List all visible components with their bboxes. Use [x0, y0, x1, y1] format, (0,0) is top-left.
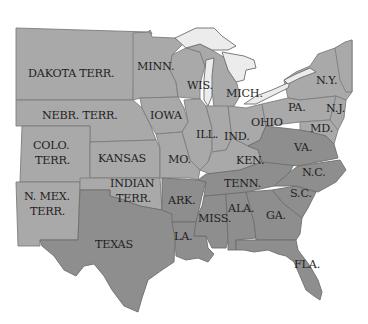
label-illinois: ILL.	[196, 128, 218, 141]
label-new-mexico-line2: TERR.	[30, 205, 65, 218]
label-virginia: VA.	[293, 141, 312, 154]
label-north-carolina: N.C.	[302, 166, 326, 179]
label-mississippi: MISS.	[198, 212, 231, 225]
civil-war-us-map: DAKOTA TERR. MINN. WIS. MICH. N.Y. NEBR.…	[0, 0, 368, 324]
label-missouri: MO.	[168, 153, 191, 166]
label-ohio: OHIO	[251, 116, 283, 129]
label-maryland: MD.	[310, 122, 333, 135]
label-colorado-line1: COLO.	[33, 139, 69, 152]
label-kentucky: KEN.	[236, 154, 264, 167]
label-wisconsin: WIS.	[187, 79, 213, 92]
label-colorado-line2: TERR.	[35, 154, 70, 167]
label-louisiana: LA.	[174, 230, 192, 243]
label-dakota-territory: DAKOTA TERR.	[28, 67, 114, 80]
label-indian-territory-line1: INDIAN	[110, 177, 155, 190]
label-minnesota: MINN.	[137, 60, 174, 73]
label-new-jersey: N.J.	[326, 102, 345, 115]
label-indian-territory-line2: TERR.	[116, 192, 151, 205]
label-michigan: MICH.	[226, 87, 263, 100]
label-new-york: N.Y.	[316, 74, 337, 87]
label-kansas: KANSAS	[98, 152, 146, 165]
label-iowa: IOWA	[150, 109, 183, 122]
label-tennessee: TENN.	[224, 177, 261, 190]
label-texas: TEXAS	[95, 238, 133, 251]
label-nebraska-territory: NEBR. TERR.	[42, 109, 118, 122]
region-dakota-territory	[16, 28, 152, 100]
label-south-carolina: S.C.	[290, 187, 312, 200]
label-pennsylvania: PA.	[288, 101, 306, 114]
lake-superior	[175, 28, 236, 50]
label-new-mexico-line1: N. MEX.	[24, 190, 70, 203]
label-georgia: GA.	[266, 209, 286, 222]
label-arkansas: ARK.	[167, 194, 196, 207]
label-indiana: IND.	[224, 130, 250, 143]
label-florida: FLA.	[294, 258, 320, 271]
